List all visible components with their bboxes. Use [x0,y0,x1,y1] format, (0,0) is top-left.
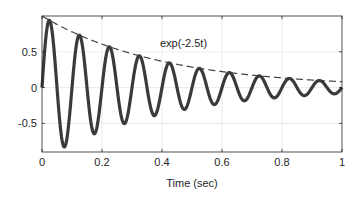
x-axis-label: Time (sec) [166,177,218,189]
y-tick-label: 0 [31,82,37,94]
x-tick-label: 0.4 [154,156,169,168]
x-tick-label: 0 [39,156,45,168]
x-tick-label: 0.2 [94,156,109,168]
envelope-annotation: exp(-2.5t) [160,37,207,49]
damped-sine-chart: 00.20.40.60.81 -0.500.5 exp(-2.5t) Time … [0,0,362,199]
x-tick-label: 1 [339,156,345,168]
x-tick-label: 0.8 [274,156,289,168]
y-tick-label: -0.5 [18,117,37,129]
x-tick-label: 0.6 [214,156,229,168]
y-tick-label: 0.5 [22,46,37,58]
